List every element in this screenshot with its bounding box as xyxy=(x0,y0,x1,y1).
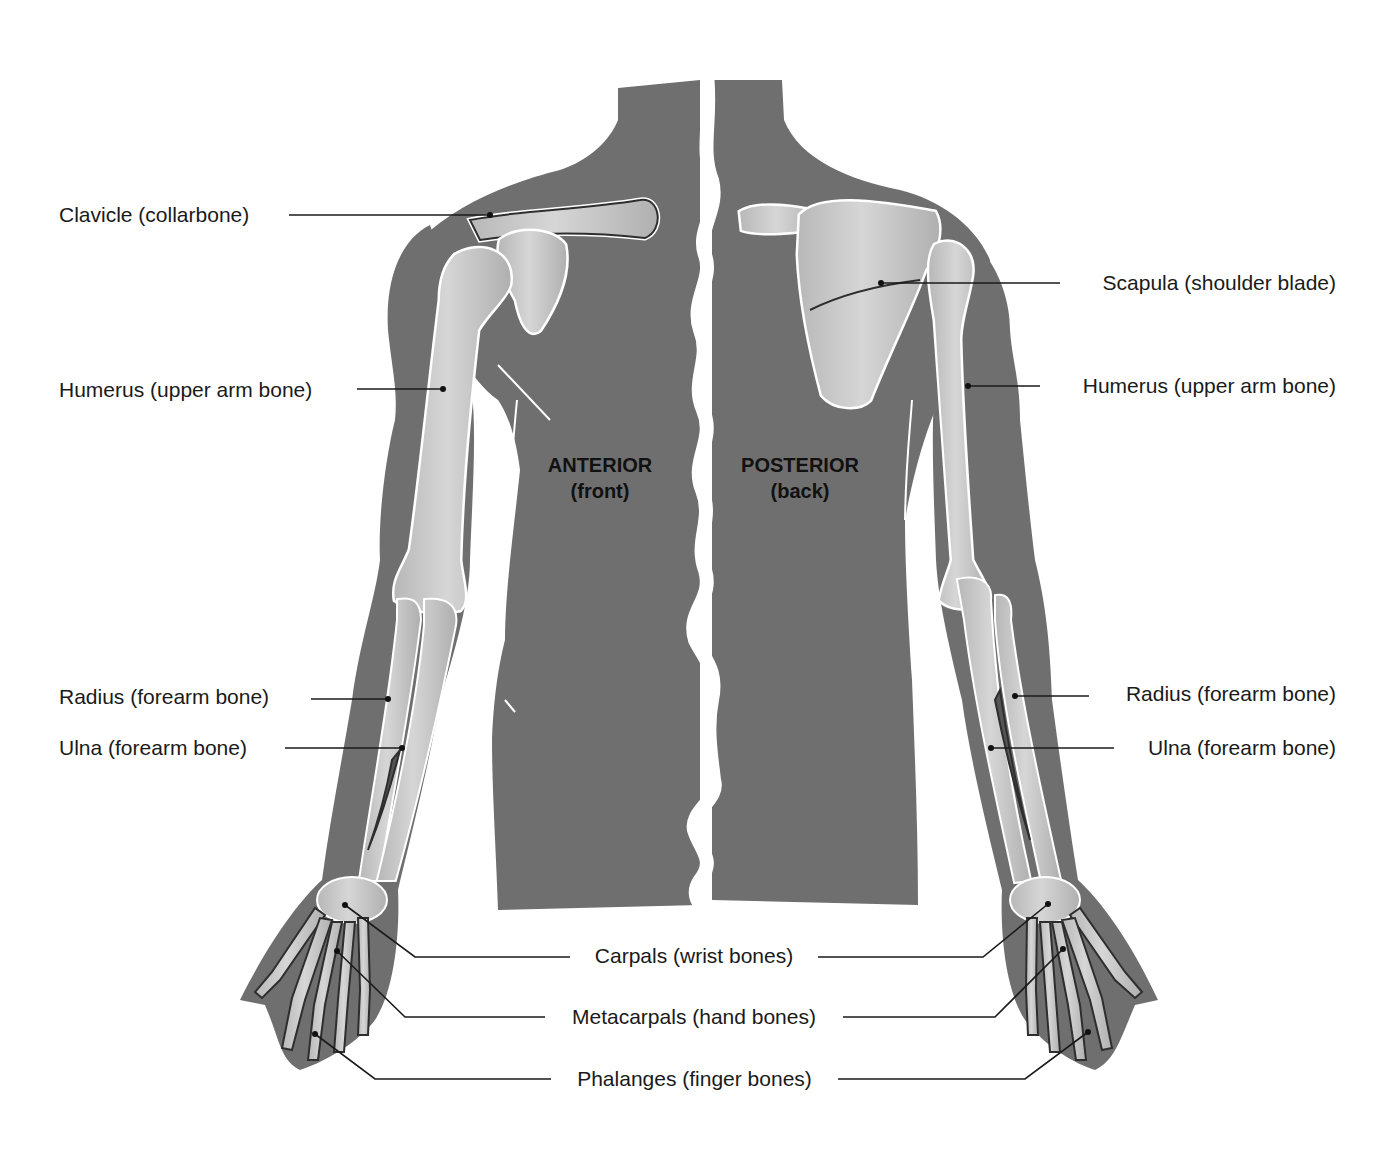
label-humerus-left: Humerus (upper arm bone) xyxy=(59,378,312,402)
label-humerus-right: Humerus (upper arm bone) xyxy=(1083,374,1336,398)
label-ulna-left: Ulna (forearm bone) xyxy=(59,736,247,760)
label-radius-right: Radius (forearm bone) xyxy=(1126,682,1336,706)
anterior-view-label: ANTERIOR (front) xyxy=(520,452,680,504)
posterior-view-label: POSTERIOR (back) xyxy=(720,452,880,504)
label-carpals: Carpals (wrist bones) xyxy=(570,944,818,968)
label-ulna-right: Ulna (forearm bone) xyxy=(1148,736,1336,760)
posterior-title: POSTERIOR xyxy=(720,452,880,478)
carpals-posterior xyxy=(1011,878,1079,922)
upper-body-skeleton-diagram xyxy=(0,0,1391,1157)
label-clavicle: Clavicle (collarbone) xyxy=(59,203,249,227)
label-phalanges: Phalanges (finger bones) xyxy=(551,1067,838,1091)
posterior-subtitle: (back) xyxy=(720,478,880,504)
carpals-anterior xyxy=(318,878,386,922)
label-metacarpals: Metacarpals (hand bones) xyxy=(545,1005,843,1029)
anterior-title: ANTERIOR xyxy=(520,452,680,478)
anterior-subtitle: (front) xyxy=(520,478,680,504)
label-radius-left: Radius (forearm bone) xyxy=(59,685,269,709)
label-scapula: Scapula (shoulder blade) xyxy=(1103,271,1336,295)
